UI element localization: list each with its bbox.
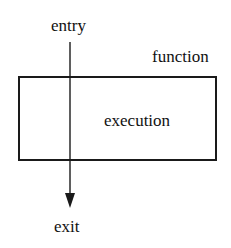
function-label: function (152, 48, 209, 65)
exit-label: exit (54, 218, 80, 235)
function-execution-diagram: entry function execution exit (0, 0, 231, 248)
arrowhead-icon (65, 193, 75, 208)
entry-label: entry (51, 17, 86, 34)
execution-label: execution (104, 112, 170, 129)
